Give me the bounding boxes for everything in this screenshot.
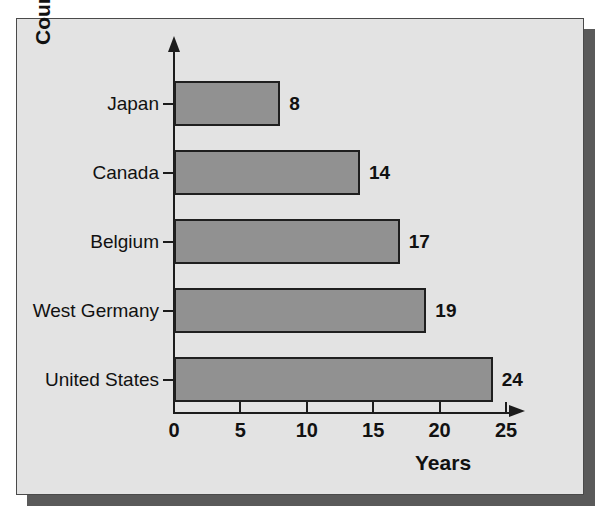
y-axis-category-label: Belgium bbox=[90, 231, 159, 253]
x-axis-title: Years bbox=[415, 451, 471, 475]
bar-row: 8 bbox=[174, 81, 350, 126]
y-axis-category-label: United States bbox=[45, 369, 159, 391]
x-axis-tick-label: 20 bbox=[428, 419, 450, 442]
bar-value-label: 8 bbox=[289, 93, 300, 115]
x-axis-tick-label: 25 bbox=[495, 419, 517, 442]
bar-row: 14 bbox=[174, 150, 430, 195]
x-axis-tick bbox=[439, 402, 441, 413]
y-axis-tick bbox=[163, 379, 174, 381]
x-axis-line bbox=[173, 412, 512, 414]
bar-row: 24 bbox=[174, 357, 563, 402]
x-axis-arrow-icon bbox=[509, 405, 525, 417]
y-axis-tick bbox=[163, 172, 174, 174]
x-axis-tick-label: 10 bbox=[296, 419, 318, 442]
y-axis-tick bbox=[163, 310, 174, 312]
y-axis-tick bbox=[163, 241, 174, 243]
x-axis-tick bbox=[372, 402, 374, 413]
bar bbox=[174, 150, 360, 195]
y-axis-tick bbox=[163, 103, 174, 105]
x-axis-tick bbox=[239, 402, 241, 413]
x-axis-tick-label: 15 bbox=[362, 419, 384, 442]
bar bbox=[174, 219, 400, 264]
bar-value-label: 14 bbox=[369, 162, 390, 184]
bar bbox=[174, 81, 280, 126]
x-axis-tick-label: 0 bbox=[168, 419, 179, 442]
bar-chart-figure: 814171924 JapanCanadaBelgiumWest Germany… bbox=[0, 0, 603, 518]
bar bbox=[174, 357, 493, 402]
bar bbox=[174, 288, 426, 333]
x-axis-tick bbox=[306, 402, 308, 413]
y-axis-arrow-icon bbox=[168, 36, 180, 52]
chart-panel: 814171924 JapanCanadaBelgiumWest Germany… bbox=[16, 18, 584, 495]
x-axis-tick bbox=[505, 402, 507, 413]
bar-row: 19 bbox=[174, 288, 496, 333]
bar-value-label: 19 bbox=[435, 300, 456, 322]
bar-row: 17 bbox=[174, 219, 470, 264]
bar-value-label: 17 bbox=[409, 231, 430, 253]
y-axis-title: Country bbox=[31, 0, 55, 45]
plot-area: 814171924 JapanCanadaBelgiumWest Germany… bbox=[17, 19, 585, 496]
y-axis-category-label: Canada bbox=[92, 162, 159, 184]
y-axis-category-label: West Germany bbox=[33, 300, 159, 322]
y-axis-category-label: Japan bbox=[107, 93, 159, 115]
x-axis-tick-label: 5 bbox=[235, 419, 246, 442]
bar-value-label: 24 bbox=[502, 369, 523, 391]
